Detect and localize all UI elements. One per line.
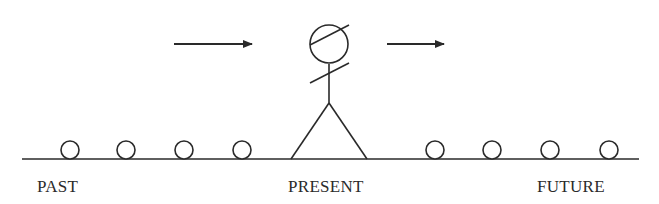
past-event-circle xyxy=(175,141,193,159)
past-label: PAST xyxy=(37,178,78,195)
past-event-circle xyxy=(117,141,135,159)
past-event-circle xyxy=(233,141,251,159)
past-event-circle xyxy=(61,141,79,159)
figure-left-leg xyxy=(291,103,329,159)
future-event-circle xyxy=(600,141,618,159)
timeline-diagram xyxy=(0,0,659,204)
figure-head xyxy=(310,25,348,63)
future-events-group xyxy=(426,141,618,159)
present-label: PRESENT xyxy=(288,178,364,195)
stick-figure-person xyxy=(291,25,367,159)
past-events-group xyxy=(61,141,251,159)
future-event-circle xyxy=(541,141,559,159)
figure-right-leg xyxy=(329,103,367,159)
future-event-circle xyxy=(483,141,501,159)
future-event-circle xyxy=(426,141,444,159)
figure-head-line xyxy=(310,25,349,45)
future-label: FUTURE xyxy=(537,178,605,195)
